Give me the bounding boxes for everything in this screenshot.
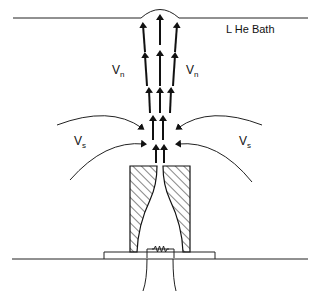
svg-text:s: s: [247, 141, 251, 150]
svg-text:s: s: [82, 141, 86, 150]
superfluid-flow-curves: [57, 116, 262, 182]
fountain-effect-diagram: L He Bath V n V n V s V s: [0, 0, 315, 299]
arrow-top-left: [143, 25, 145, 52]
base-plate: [104, 252, 215, 259]
bath-label: L He Bath: [226, 23, 275, 35]
sf-curve-right-upper: [178, 116, 262, 128]
sf-curve-left-upper: [57, 116, 142, 128]
nozzle-left-wall: [130, 166, 157, 252]
vn-label-left: V n: [112, 63, 124, 79]
heater-lead-right: [173, 259, 176, 291]
vn-label-right: V n: [186, 63, 198, 79]
arrow-mid-right: [173, 55, 175, 86]
heater-resistor-icon: [152, 246, 169, 252]
nozzle-right-wall: [163, 166, 190, 252]
normal-flow-arrows: [143, 17, 177, 163]
svg-text:V: V: [239, 134, 247, 148]
svg-text:V: V: [74, 134, 82, 148]
arrow-top-right: [175, 25, 177, 52]
arrow-low-right: [170, 90, 171, 113]
svg-text:n: n: [194, 70, 198, 79]
svg-text:n: n: [120, 70, 124, 79]
vs-label-right: V s: [239, 134, 251, 150]
vs-label-left: V s: [74, 134, 86, 150]
svg-text:V: V: [186, 63, 194, 77]
heater-lead-left: [143, 259, 147, 291]
bath-surface-line: [13, 10, 308, 19]
arrow-low-left: [149, 90, 150, 113]
svg-text:V: V: [112, 63, 120, 77]
arrow-mid-left: [145, 55, 147, 86]
